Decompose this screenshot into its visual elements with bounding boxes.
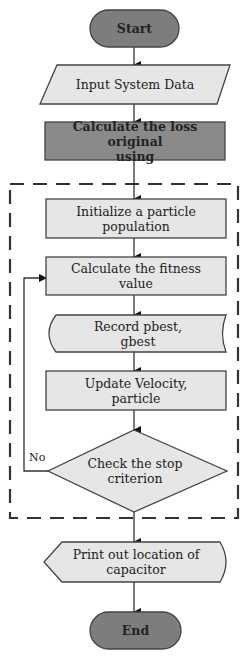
print-text-line1: Print out location of (73, 547, 200, 562)
arrow-check-no-loop (24, 278, 48, 471)
start-label: Start (90, 10, 179, 47)
no-branch-label: No (29, 451, 45, 464)
input-text: Input System Data (76, 77, 194, 92)
check-text-line2: criterion (108, 471, 163, 486)
end-label: End (90, 612, 181, 649)
fitness-label: Calculate the fitness value (46, 257, 226, 295)
check-text-line1: Check the stop (88, 456, 183, 471)
fitness-text-line1: Calculate the fitness (71, 261, 201, 276)
print-text-line2: capacitor (106, 562, 165, 577)
fitness-text-line2: value (119, 276, 153, 291)
calc-loss-text-line1: Calculate the loss original (45, 119, 225, 149)
end-text: End (122, 623, 149, 638)
input-label: Input System Data (45, 65, 225, 104)
record-text-line1: Record pbest, (94, 319, 182, 334)
update-text-line2: particle (112, 391, 161, 406)
record-text-line2: gbest (121, 334, 156, 349)
update-label: Update Velocity, particle (46, 371, 226, 410)
calc-loss-label: Calculate the loss original using (45, 122, 225, 160)
init-text-line1: Initialize a particle (76, 204, 196, 219)
init-text-line2: population (102, 219, 170, 234)
record-label: Record pbest, gbest (50, 315, 226, 352)
update-text-line1: Update Velocity, (85, 376, 188, 391)
init-label: Initialize a particle population (46, 199, 226, 238)
check-label: Check the stop criterion (60, 451, 210, 491)
start-text: Start (117, 21, 152, 36)
calc-loss-text-line2: using (116, 149, 155, 164)
print-label: Print out location of capacitor (44, 542, 228, 582)
